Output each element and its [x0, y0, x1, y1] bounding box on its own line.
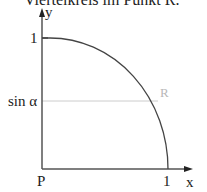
quarter-circle-arc: [42, 38, 168, 169]
x-tick-one-label: 1: [163, 174, 171, 189]
y-tick-one-label: 1: [30, 31, 38, 46]
point-r-label: R: [160, 86, 169, 99]
sin-alpha-label: sin α: [8, 94, 37, 109]
origin-label: P: [37, 174, 45, 189]
y-axis-label: y: [45, 5, 53, 20]
x-axis-arrow-icon: [184, 166, 193, 172]
x-axis-label: x: [186, 175, 194, 190]
